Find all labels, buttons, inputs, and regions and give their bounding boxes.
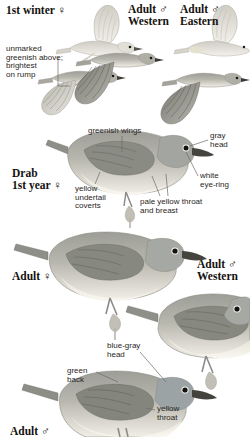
perched-bird-adult-male bbox=[22, 371, 217, 437]
heading-adult-male-eastern-flight: Adult ♂ Eastern bbox=[180, 3, 220, 28]
annotation-blue-gray-head: blue-gray head bbox=[107, 342, 140, 359]
heading-first-winter-female: 1st winter ♀ bbox=[6, 4, 66, 16]
heading-adult-male-western: Adult ♂ Western bbox=[197, 258, 238, 283]
annotation-yellow-undertail-coverts: yellow undertail coverts bbox=[75, 185, 106, 211]
flight-bird-adult-eastern-lower bbox=[161, 73, 250, 124]
heading-adult-male-western-flight: Adult ♂ Western bbox=[128, 3, 169, 28]
heading-drab-first-year-female: Drab 1st year ♀ bbox=[12, 167, 62, 192]
annotation-gray-head: gray head bbox=[210, 132, 228, 149]
field-guide-plate: 1st winter ♀ Adult ♂ Western Adult ♂ Eas… bbox=[0, 0, 250, 437]
annotation-pale-yellow-throat-and-breast: pale yellow throat and breast bbox=[140, 198, 202, 215]
annotation-yellow-throat: yellow throat bbox=[157, 405, 179, 422]
annotation-unmarked-greenish-above: unmarked greenish above; brightest on ru… bbox=[6, 45, 63, 80]
annotation-white-eye-ring: white eye-ring bbox=[200, 172, 229, 189]
heading-adult-female: Adult ♀ bbox=[12, 270, 52, 282]
annotation-green-back: green back bbox=[67, 367, 87, 384]
heading-adult-male: Adult ♂ bbox=[10, 425, 50, 437]
annotation-greenish-wings: greenish wings bbox=[88, 127, 141, 136]
